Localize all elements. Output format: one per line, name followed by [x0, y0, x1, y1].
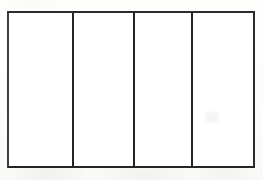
panel-1[interactable] — [9, 13, 72, 166]
figure-canvas — [0, 0, 263, 180]
scan-artifact-smudge — [206, 112, 218, 122]
panel-3[interactable] — [133, 13, 191, 166]
panel-2[interactable] — [72, 13, 133, 166]
panel-4[interactable] — [191, 13, 253, 166]
outer-rectangle-frame — [7, 11, 255, 168]
